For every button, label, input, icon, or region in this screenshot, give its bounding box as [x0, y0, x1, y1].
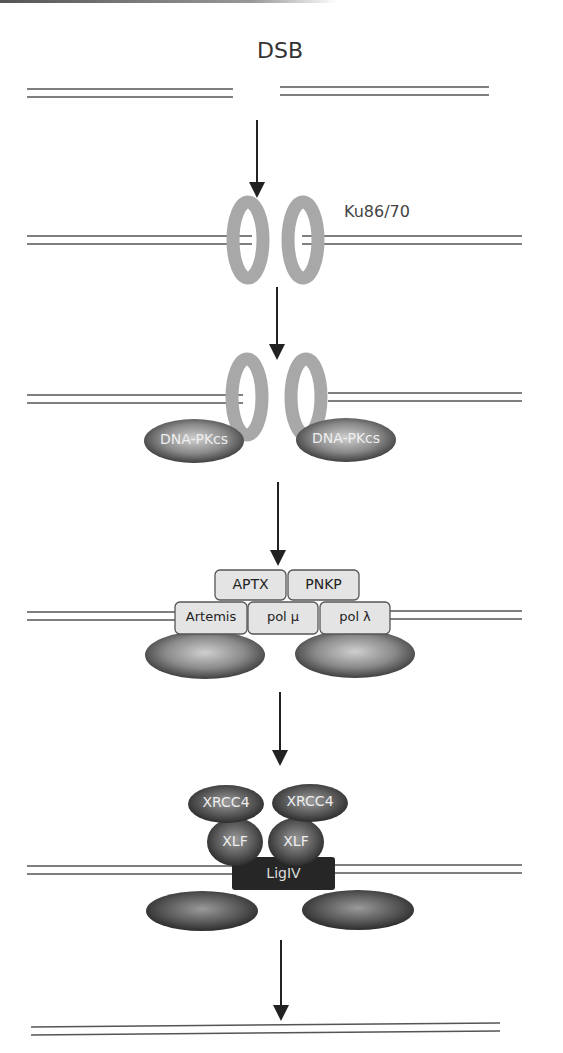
pnkp-label: PNKP [288, 576, 359, 592]
aptx-label: APTX [215, 576, 286, 592]
dnapkcs-left-label: DNA-PKcs [150, 431, 238, 447]
xrcc4-left-label: XRCC4 [188, 794, 264, 810]
ku-ring-left-2 [232, 359, 262, 435]
dnapkcs-left-3 [145, 631, 265, 679]
dnapkcs-right-3 [295, 630, 415, 678]
dna-broken-strands [27, 87, 489, 97]
pol-lambda-label: pol λ [320, 609, 390, 624]
xlf-right-label: XLF [268, 833, 324, 849]
dna-with-dnapk [27, 393, 522, 403]
ligiv-label: LigIV [232, 865, 335, 881]
dnapkcs-left-5 [146, 891, 258, 931]
dnapkcs-right-label: DNA-PKcs [302, 430, 390, 446]
ku-ring-right [288, 202, 318, 278]
ku-ring-left [233, 202, 263, 278]
diagram-canvas [0, 0, 563, 1053]
ku-label: Ku86/70 [344, 202, 410, 221]
nhej-pathway-diagram: DSB [0, 0, 563, 1053]
dna-with-ku [27, 236, 522, 244]
dnapkcs-right-5 [302, 890, 414, 930]
artemis-label: Artemis [175, 609, 247, 624]
xrcc4-right-label: XRCC4 [272, 793, 348, 809]
xlf-left-label: XLF [207, 833, 263, 849]
dna-repaired [31, 1023, 500, 1035]
pol-mu-label: pol μ [248, 609, 318, 624]
